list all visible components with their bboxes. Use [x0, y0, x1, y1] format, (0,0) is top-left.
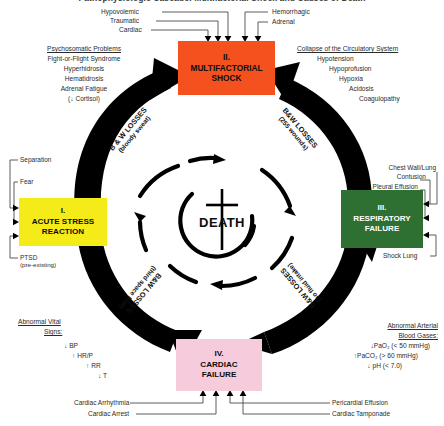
inner-arrowhead [213, 154, 226, 164]
respiratory-input-arrowheads [423, 201, 429, 238]
vital-sign-item: ↑ RR [86, 361, 130, 371]
blood-gas-item: ↑PaCO₂ (> 60 mmHg) [330, 351, 418, 361]
inner-arrowhead [284, 206, 296, 216]
circulatory-item: Hypotension [317, 54, 443, 64]
stress-input-separation: Separation [20, 156, 51, 163]
stress-input-fear: Fear [20, 178, 33, 185]
node-acute-stress-reaction[interactable]: I. ACUTE STRESS REACTION [19, 198, 107, 246]
blood-gas-item: ↓PaO₂ (< 50 mmHg) [330, 341, 430, 351]
psychosomatic-block: Psychosomatic Problems Fight-or-Flight S… [14, 44, 154, 104]
node-roman: IV. [214, 349, 223, 360]
shock-input-hemorrhagic: Hemorrhagic [272, 8, 310, 15]
blood-gases-heading-line1: Abnormal Arterial [330, 321, 438, 331]
vital-sign-item: ↓ T [98, 371, 130, 381]
circulatory-block: Collapse of the Circulatory System Hypot… [297, 44, 443, 104]
psychosomatic-item: Hematidrosis [14, 74, 154, 84]
psychosomatic-item: Fight-or-Flight Syndrome [14, 54, 154, 64]
stress-input-ptsd-sub: (pre-existing) [20, 261, 56, 268]
respiratory-input-shock-lung: Shock Lung [383, 252, 417, 259]
node-name-line1: MULTIFACTORIAL [190, 63, 262, 74]
node-roman: II. [223, 52, 230, 63]
node-name-line1: CARDIAC [200, 360, 237, 371]
shock-input-hypovolemic: Hypovolemic [101, 8, 139, 15]
blood-gases-heading-line2: Blood Gases: [330, 331, 438, 341]
blood-gas-item: ↓ pH (< 7.0) [330, 361, 402, 371]
node-cardiac-failure[interactable]: IV. CARDIAC FAILURE [176, 339, 262, 391]
psychosomatic-heading: Psychosomatic Problems [14, 44, 154, 54]
shock-input-adrenal: Adrenal [272, 18, 295, 25]
shock-input-connectors [151, 12, 268, 36]
psychosomatic-item: (↓ Cortisol) [14, 94, 154, 104]
cardiac-input-pericardial-effusion: Pericardial Effusion [332, 399, 388, 406]
inner-arrowhead [210, 280, 223, 290]
shock-input-traumatic: Traumatic [110, 17, 139, 24]
stress-input-ptsd-label: PTSD [20, 254, 37, 261]
node-name-line2: FAILURE [365, 224, 400, 235]
node-name-line2: FAILURE [202, 370, 237, 381]
diagram-canvas: Pathophysiologic Cascade: Multifactorial… [0, 0, 444, 426]
vital-sign-item: ↓ BP [64, 341, 130, 351]
circulatory-item: Hypoprofusion [329, 64, 443, 74]
circulatory-item: Coagulopathy [359, 94, 443, 104]
vital-sign-item: ↑ HR/P [72, 351, 130, 361]
node-name-line2: REACTION [42, 227, 84, 238]
cardiac-input-tamponade: Cardiac Tamponade [332, 410, 390, 417]
vital-signs-block: Abnormal Vital Signs: ↓ BP ↑ HR/P ↑ RR ↓… [6, 317, 130, 381]
cardiac-input-arrest: Cardiac Arrest [88, 410, 129, 417]
psychosomatic-item: Adrenal Fatigue [14, 84, 154, 94]
shock-input-cardiac: Cardiac [119, 26, 142, 33]
circulatory-heading: Collapse of the Circulatory System [297, 44, 443, 54]
node-roman: III. [378, 203, 387, 214]
blood-gases-block: Abnormal Arterial Blood Gases: ↓PaO₂ (< … [330, 321, 438, 371]
respiratory-input-pleural-effusion: Pleural Effusion [340, 183, 418, 190]
circulatory-item: Hypoxia [339, 74, 443, 84]
cardiac-input-connectors [130, 396, 330, 414]
cardiac-input-arrhythmia: Cardiac Arrhythmia [74, 399, 129, 406]
psychosomatic-item: Hyperhidrosis [14, 64, 154, 74]
respiratory-input-contusion: Contusion [352, 173, 426, 180]
node-multifactorial-shock[interactable]: II. MULTIFACTORIAL SHOCK [178, 41, 275, 95]
node-name-line2: SHOCK [212, 73, 242, 84]
death-label: DEATH [184, 215, 260, 230]
node-roman: I. [61, 206, 66, 217]
inner-arrowhead [134, 212, 146, 222]
circulatory-item: Acidosis [349, 84, 443, 94]
stress-input-ptsd: PTSD (pre-existing) [20, 254, 56, 268]
node-name-line1: RESPIRATORY [353, 214, 410, 225]
respiratory-input-chest-wall: Chest Wall/Lung [352, 164, 436, 171]
node-name-line1: ACUTE STRESS [32, 217, 95, 228]
node-respiratory-failure[interactable]: III. RESPIRATORY FAILURE [341, 190, 423, 248]
